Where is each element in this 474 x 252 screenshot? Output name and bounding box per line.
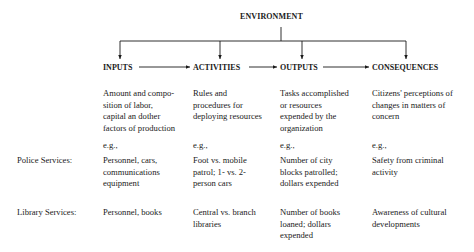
- outputs-definition: Tasks accomplished or resources expended…: [280, 88, 349, 134]
- police-inputs: Personnel, cars, communications equipmen…: [103, 155, 160, 190]
- example-label: e.g.,: [372, 140, 387, 150]
- environment-node: ENVIRONMENT: [240, 12, 303, 21]
- stage-outputs: OUTPUTS: [280, 63, 318, 72]
- police-consequences: Safety from criminal activity: [372, 155, 444, 178]
- row-label-police: Police Services:: [17, 155, 72, 167]
- example-label: e.g.,: [103, 140, 118, 150]
- stage-inputs: INPUTS: [103, 63, 132, 72]
- inputs-definition: Amount and compo- sition of labor, capit…: [103, 88, 175, 134]
- library-outputs: Number of books loaned; dollars expended: [280, 207, 340, 242]
- activities-definition: Rules and procedures for deploying resou…: [193, 88, 262, 123]
- stage-activities: ACTIVITIES: [193, 63, 240, 72]
- example-label: e.g.,: [280, 140, 295, 150]
- row-label-library: Library Services:: [17, 207, 76, 219]
- library-consequences: Awareness of cultural developments: [372, 207, 447, 230]
- library-activities: Central vs. branch libraries: [193, 207, 256, 230]
- library-inputs: Personnel, books: [103, 207, 162, 219]
- stage-consequences: CONSEQUENCES: [372, 63, 438, 72]
- example-label: e.g.,: [193, 140, 208, 150]
- police-outputs: Number of city blocks patrolled; dollars…: [280, 155, 338, 190]
- police-activities: Foot vs. mobile patrol; 1- vs. 2- person…: [193, 155, 247, 190]
- consequences-definition: Citizens' perceptions of changes in matt…: [372, 88, 453, 123]
